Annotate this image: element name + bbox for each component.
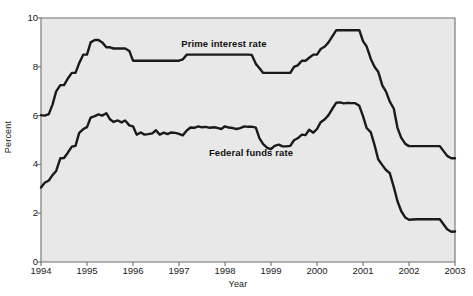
series-label-prime-interest-rate: Prime interest rate	[181, 38, 266, 49]
series-label-federal-funds-rate: Federal funds rate	[209, 147, 293, 158]
interest-rate-chart: Percent Year 0246810 1994199519961997199…	[0, 0, 473, 296]
